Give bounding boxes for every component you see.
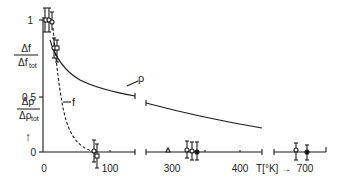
ylabel-bottom-subscript: tot	[31, 115, 39, 122]
rho-curve-segment-1	[50, 40, 135, 96]
y-tick-0: 0	[30, 147, 36, 158]
x-tick-700: 700	[297, 163, 314, 174]
x-tick-100: 100	[102, 163, 119, 174]
rho-label-leader	[127, 81, 138, 86]
f-curve-label: f	[72, 96, 76, 108]
ylabel-bottom-numerator: Δρ	[22, 96, 35, 107]
ylabel-top-denominator: Δf	[18, 57, 28, 68]
f-curve	[53, 28, 97, 152]
ylabel-bottom-denominator: Δρ	[19, 110, 32, 121]
x-tick-0: 0	[41, 163, 47, 174]
up-arrow-icon: ↑	[25, 129, 32, 144]
ylabel-top-numerator: Δf	[21, 43, 31, 54]
error-bars-low-t	[43, 8, 59, 62]
chart-figure: 1 0.5 0 0 100 300 400 700 T[°K] → Δf Δf …	[0, 0, 341, 183]
x-axis-label: T[°K] →	[256, 163, 291, 174]
y-tick-1: 1	[27, 15, 33, 26]
rho-curve-label: ρ	[138, 72, 144, 84]
x-tick-400: 400	[232, 163, 249, 174]
ylabel-top-subscript: tot	[29, 62, 37, 69]
rho-curve-segment-2	[146, 103, 262, 128]
x-tick-300: 300	[164, 163, 181, 174]
